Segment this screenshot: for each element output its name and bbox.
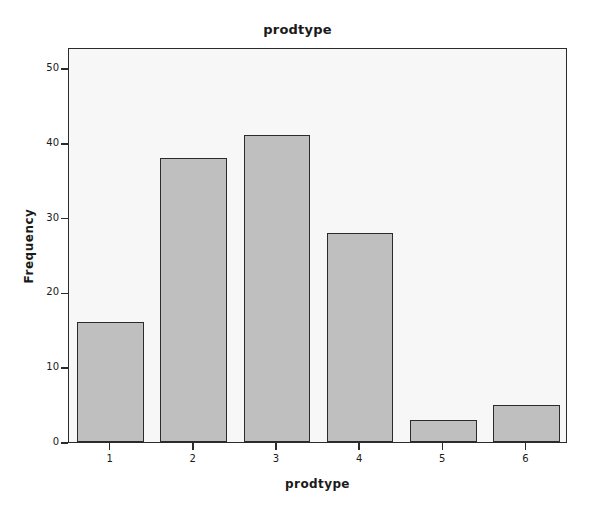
bar-chart: prodtype 01020304050 Frequency 123456 pr… [0, 0, 595, 518]
y-axis-title: Frequency [18, 48, 40, 444]
bar-4 [327, 233, 394, 442]
y-tick-mark [61, 218, 68, 220]
bar-3 [244, 135, 311, 442]
y-tick-label: 0 [53, 436, 59, 447]
x-tick-mark [192, 443, 194, 450]
bars-layer [69, 49, 566, 442]
y-tick-mark [61, 143, 68, 145]
bar-2 [160, 158, 227, 442]
bar-5 [410, 420, 477, 442]
y-tick-mark [61, 442, 68, 444]
bar-6 [493, 405, 560, 442]
x-tick-mark [358, 443, 360, 450]
x-tick-mark [109, 443, 111, 450]
x-tick-mark [525, 443, 527, 450]
y-tick-label: 30 [46, 212, 59, 223]
y-tick-mark [61, 367, 68, 369]
bar-1 [77, 322, 144, 442]
y-tick-label: 40 [46, 137, 59, 148]
x-tick-mark [442, 443, 444, 450]
y-tick-mark [61, 68, 68, 70]
x-tick-mark [275, 443, 277, 450]
y-tick-label: 20 [46, 286, 59, 297]
y-tick-mark [61, 293, 68, 295]
x-tick-label: 4 [339, 453, 379, 464]
y-tick-label: 10 [46, 361, 59, 372]
x-axis-title: prodtype [68, 477, 567, 491]
x-tick-label: 6 [505, 453, 545, 464]
x-tick-label: 1 [90, 453, 130, 464]
x-tick-label: 5 [422, 453, 462, 464]
chart-title: prodtype [0, 22, 595, 37]
y-tick-label: 50 [46, 62, 59, 73]
plot-area [68, 48, 567, 443]
x-tick-label: 3 [256, 453, 296, 464]
x-tick-label: 2 [173, 453, 213, 464]
